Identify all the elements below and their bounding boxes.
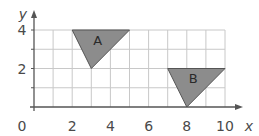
x-axis-label: x <box>244 118 254 134</box>
x-tick-label: 8 <box>182 118 191 134</box>
y-axis-arrow-icon <box>31 10 37 18</box>
x-tick-label: 10 <box>216 118 234 134</box>
triangle-label: B <box>189 71 198 86</box>
y-tick-label: 2 <box>18 61 27 77</box>
y-tick-label: 4 <box>18 22 27 38</box>
x-tick-label: 4 <box>106 118 115 134</box>
triangle-label: A <box>93 33 102 48</box>
x-tick-label: 2 <box>68 118 77 134</box>
x-tick-label: 0 <box>18 118 27 134</box>
x-axis-arrow-icon <box>235 104 243 110</box>
coordinate-grid-diagram: AB 024681024xy <box>0 0 259 136</box>
coordinate-grid: AB 024681024xy <box>0 0 259 136</box>
x-tick-label: 6 <box>144 118 153 134</box>
y-axis-label: y <box>18 6 28 22</box>
axes <box>30 10 243 111</box>
